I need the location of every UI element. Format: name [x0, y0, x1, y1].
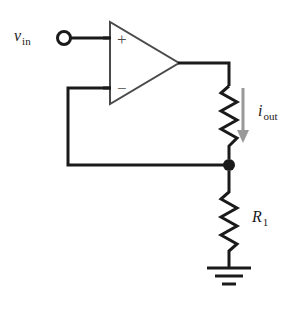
feedback-resistor-label: R1 — [251, 208, 268, 228]
output-resistor — [221, 86, 237, 159]
circuit-diagram: + − vin iout R1 — [0, 0, 304, 309]
input-voltage-subscript: in — [22, 35, 31, 47]
input-voltage-label: vin — [14, 27, 31, 47]
feedback-resistor — [221, 171, 237, 268]
circuit-canvas: + − vin iout R1 — [0, 0, 304, 309]
input-terminal-node — [58, 32, 71, 45]
opamp-minus-sign: − — [117, 79, 127, 98]
output-current-base: i — [258, 102, 262, 119]
opamp-output-wire — [178, 63, 229, 86]
output-current-subscript: out — [263, 110, 277, 122]
feedback-wire — [68, 88, 229, 165]
opamp-plus-sign: + — [117, 30, 127, 49]
feedback-resistor-subscript: 1 — [263, 216, 269, 228]
current-arrow-head — [237, 130, 249, 143]
input-voltage-base: v — [14, 27, 22, 44]
output-current-label: iout — [258, 102, 278, 122]
feedback-resistor-base: R — [251, 208, 262, 225]
